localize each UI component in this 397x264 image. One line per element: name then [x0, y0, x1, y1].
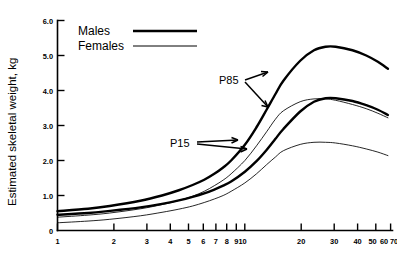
y-tick-label: 3.0: [43, 122, 53, 131]
x-tick-label: 60: [380, 237, 388, 246]
annotation-p15-arrow-upper: [197, 140, 238, 142]
x-tick-label: 20: [297, 237, 305, 246]
x-tick-label: 50: [368, 237, 376, 246]
y-tick-label: 1.0: [43, 192, 53, 201]
y-axis-tick-labels: 6.0 5.0 4.0 3.0 2.0 1.0 0: [43, 17, 53, 236]
x-tick-label: 30: [330, 237, 338, 246]
annotation-p85-label: P85: [219, 74, 239, 86]
y-axis-title: Estimated skeletal weight, kg: [6, 58, 18, 206]
x-tick-label: 3: [145, 237, 149, 246]
annotation-p15-label: P15: [170, 137, 190, 149]
legend-label-males: Males: [78, 24, 110, 38]
x-tick-label: 4: [168, 237, 173, 246]
x-tick-label: 7: [214, 237, 218, 246]
annotation-p85: P85: [219, 72, 268, 108]
x-tick-label: 910: [234, 237, 246, 246]
x-tick-label: 1: [55, 237, 59, 246]
y-tick-label: 0: [49, 227, 53, 236]
x-tick-label: 5: [186, 237, 190, 246]
y-tick-label: 6.0: [43, 17, 53, 26]
x-tick-label: 40: [353, 237, 361, 246]
data-curves: [58, 46, 388, 222]
curve-males-p15: [58, 98, 388, 215]
legend-label-females: Females: [78, 39, 124, 53]
annotation-p85-arrow-lower: [245, 82, 268, 107]
x-axis-tick-labels: 1 2 3 4 5 6 7 8 910 20 30 40 50 60 70: [55, 237, 397, 246]
annotation-p15: P15: [170, 137, 247, 152]
annotation-p85-arrow-upper: [245, 72, 268, 80]
x-tick-label: 8: [225, 237, 229, 246]
y-axis-ticks: [58, 21, 65, 196]
y-tick-label: 4.0: [43, 87, 53, 96]
chart-plot-area: Estimated skeletal weight, kg 6.0 5.0 4.…: [0, 0, 397, 264]
x-tick-label: 70: [390, 237, 397, 246]
x-tick-label: 6: [201, 237, 205, 246]
chart-figure: Estimated skeletal weight, kg 6.0 5.0 4.…: [0, 0, 397, 264]
y-tick-label: 5.0: [43, 52, 53, 61]
annotation-p15-arrow-lower: [197, 144, 247, 149]
x-axis-ticks: [58, 224, 391, 231]
chart-legend: Males Females: [78, 24, 197, 53]
x-tick-label: 2: [112, 237, 116, 246]
y-tick-label: 2.0: [43, 157, 53, 166]
curve-females-p85: [58, 99, 388, 218]
